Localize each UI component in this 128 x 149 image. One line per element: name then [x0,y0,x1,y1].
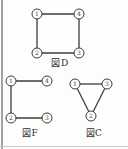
node-label-3: 3 [45,114,49,121]
node-label-2: 2 [9,114,13,121]
node-label-4: 4 [77,10,81,17]
figure-D-caption: 図D [51,58,68,68]
figure-C: 132図C [70,79,112,138]
figure-F-caption: 図F [22,128,38,138]
worksheet-cell: 1423図D1423図F132図C [0,0,128,149]
graph-diagrams: 1423図D1423図F132図C [0,0,128,149]
node-label-1: 1 [73,80,77,87]
node-label-2: 2 [89,112,93,119]
node-label-4: 4 [45,77,49,84]
node-label-3: 3 [77,49,81,56]
node-label-1: 1 [9,77,13,84]
node-label-1: 1 [35,10,39,17]
figure-C-caption: 図C [86,128,103,138]
node-label-2: 2 [35,49,39,56]
figure-D: 1423図D [32,9,84,68]
figure-F: 1423図F [6,76,52,138]
node-label-3: 3 [105,80,109,87]
